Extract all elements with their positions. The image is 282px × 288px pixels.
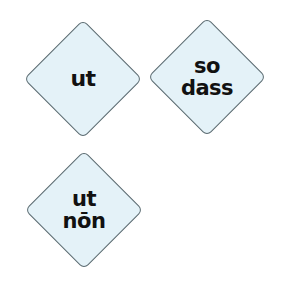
card-text-line: ut bbox=[70, 67, 95, 90]
card-text-line: so bbox=[194, 55, 220, 77]
card-ut[interactable]: ut bbox=[22, 18, 144, 140]
card-text-line: ut bbox=[72, 188, 96, 210]
card-label: so dass bbox=[146, 16, 268, 138]
card-text-line: nōn bbox=[63, 210, 106, 232]
card-label: ut nōn bbox=[23, 149, 145, 271]
card-so-dass[interactable]: so dass bbox=[146, 16, 268, 138]
card-ut-non[interactable]: ut nōn bbox=[23, 149, 145, 271]
card-text-line: dass bbox=[181, 77, 233, 99]
card-label: ut bbox=[22, 18, 144, 140]
